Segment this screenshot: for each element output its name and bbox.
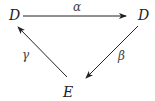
label-beta: β	[117, 49, 125, 63]
label-gamma: γ	[22, 48, 30, 62]
diagram-canvas: D D E α β γ	[0, 0, 155, 101]
node-d-left: D	[8, 7, 20, 23]
label-alpha: α	[73, 0, 81, 14]
node-d-right: D	[137, 7, 149, 23]
arrow-beta	[86, 26, 138, 78]
node-e-bottom: E	[62, 84, 73, 100]
